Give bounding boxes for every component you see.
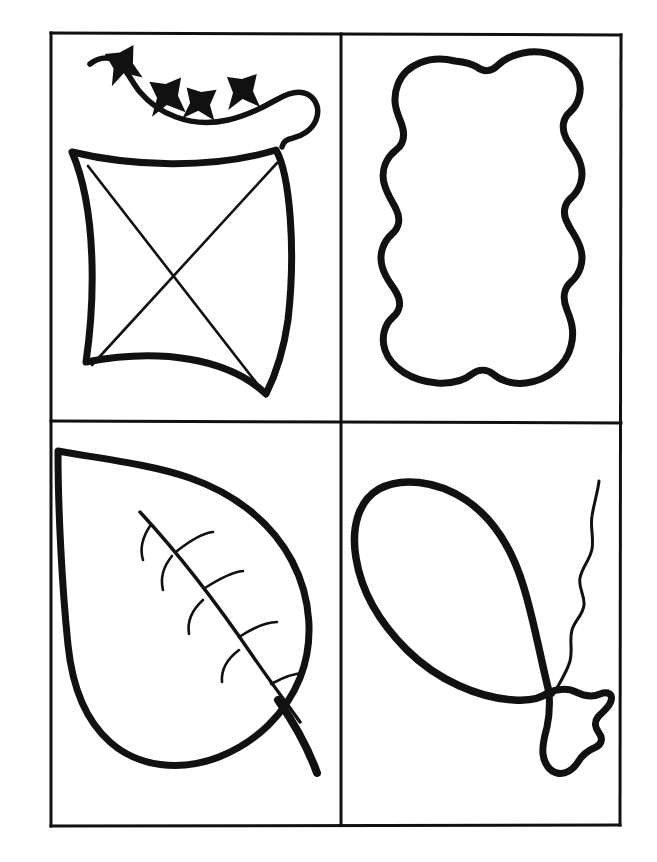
panel-bottom-right[interactable]	[343, 425, 620, 823]
divider-horizontal	[51, 421, 621, 423]
drawing-canvas	[0, 0, 657, 862]
worksheet-page: Four Outline Shapes Worksheet	[0, 0, 657, 862]
frame-bottom-edge	[51, 825, 620, 826]
panel-top-left[interactable]	[52, 35, 340, 420]
panel-top-right[interactable]	[343, 35, 620, 420]
panel-bottom-left[interactable]	[52, 425, 340, 823]
frame-right-edge	[620, 35, 621, 825]
frame-top-edge	[51, 33, 621, 35]
